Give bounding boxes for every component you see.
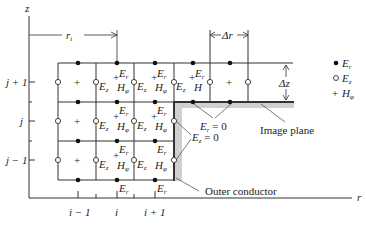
svg-text:Hφ: Hφ xyxy=(116,159,129,173)
ez-zero-label: Ez = 0 xyxy=(191,131,219,145)
svg-text:Er: Er xyxy=(156,182,167,196)
legend-ez-label: Ez xyxy=(341,72,352,86)
svg-text:Er: Er xyxy=(194,67,205,81)
svg-text:Ez: Ez xyxy=(136,158,147,172)
image-plane-label: Image plane xyxy=(260,124,314,136)
legend: Er Ez + Hφ xyxy=(332,57,354,101)
svg-text:+: + xyxy=(74,154,80,166)
legend-hphi-label: Hφ xyxy=(341,87,354,101)
dz-label: Δz xyxy=(278,77,290,89)
legend-ez-circle-icon xyxy=(334,76,339,81)
svg-text:Hφ: Hφ xyxy=(116,120,129,134)
svg-text:Hφ: Hφ xyxy=(154,81,167,95)
svg-text:Hφ: Hφ xyxy=(154,120,167,134)
z-tick-j: j xyxy=(18,115,23,127)
svg-text:Er: Er xyxy=(156,143,167,157)
z-ticks xyxy=(29,82,35,160)
annotation-leaders xyxy=(176,104,285,191)
svg-text:Ez: Ez xyxy=(136,80,147,94)
legend-er-label: Er xyxy=(341,57,352,71)
svg-text:Ez: Ez xyxy=(98,80,109,94)
svg-text:Er: Er xyxy=(156,67,167,81)
outer-conductor-shade xyxy=(174,103,182,181)
z-axis-label: z xyxy=(24,2,30,14)
svg-text:Er: Er xyxy=(118,67,129,81)
svg-text:Er: Er xyxy=(118,143,129,157)
z-tick-j-minus-1: j − 1 xyxy=(4,154,27,166)
legend-hphi-plus-icon: + xyxy=(332,87,338,99)
svg-text:Ez: Ez xyxy=(136,119,147,133)
r-ticks xyxy=(78,191,155,198)
hphi-labels: Hφ Hφ H Hφ Hφ Hφ Hφ xyxy=(116,81,203,173)
svg-text:+: + xyxy=(226,76,232,88)
r-axis-label: r xyxy=(357,191,362,203)
dr-label: Δr xyxy=(221,29,233,41)
svg-text:Ez: Ez xyxy=(98,119,109,133)
outer-conductor-label: Outer conductor xyxy=(205,185,277,197)
svg-text:Er: Er xyxy=(118,104,129,118)
svg-text:H: H xyxy=(193,81,203,93)
r-tick-i-plus-1: i + 1 xyxy=(144,206,165,218)
z-tick-j-plus-1: j + 1 xyxy=(4,76,27,88)
svg-text:+: + xyxy=(74,76,80,88)
svg-text:Er: Er xyxy=(118,182,129,196)
svg-text:Er: Er xyxy=(156,104,167,118)
svg-text:Hφ: Hφ xyxy=(116,81,129,95)
r-tick-i-minus-1: i − 1 xyxy=(69,206,90,218)
svg-text:Hφ: Hφ xyxy=(154,159,167,173)
legend-er-dot-icon xyxy=(334,61,339,66)
fdtd-grid-diagram: z r j + 1 j j − 1 i − 1 i i + 1 ri xyxy=(0,0,366,231)
svg-text:+: + xyxy=(74,115,80,127)
svg-text:Ez: Ez xyxy=(98,158,109,172)
r-tick-i: i xyxy=(115,206,118,218)
svg-text:Ez: Ez xyxy=(175,80,186,94)
